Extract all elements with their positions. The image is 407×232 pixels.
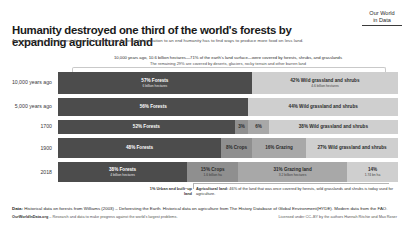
page-title: Humanity destroyed one third of the worl… — [12, 24, 342, 48]
segment-sublabel: 6 billion hectares — [143, 84, 168, 88]
segment-percent-label: 27% Wild grassland and shrubs — [318, 145, 387, 150]
top-annotation: 10,000 years ago, 10.6 billion hectares—… — [58, 55, 398, 66]
license-text: Licensed under CC–BY by the authors Hann… — [278, 214, 397, 220]
bar-segment-grazing[interactable]: 31% Grazing land3.2 billion hectares — [238, 162, 347, 182]
stacked-bar-chart: 10,000 years ago57% Forests6 billion hec… — [0, 70, 407, 185]
credit-left: OurWorldInData.org – Research and data t… — [12, 214, 177, 220]
row-label-1900: 1900 — [0, 145, 52, 151]
row-label-1700: 1700 — [0, 123, 52, 129]
segment-percent-label: 8% Crops — [226, 145, 247, 150]
bar-segment-crops[interactable]: 8% Crops — [221, 138, 252, 158]
footnote-urban-label: 1% Urban and built–up land — [148, 186, 192, 197]
bar-segment-grazing[interactable]: 6% — [248, 120, 268, 134]
row-label-2018: 2018 — [0, 169, 52, 175]
source-line: Data: Historical data on forests from Wi… — [12, 206, 397, 212]
our-world-in-data-logo[interactable]: Our World in Data — [362, 10, 402, 26]
credit-row: OurWorldInData.org – Research and data t… — [12, 214, 397, 221]
bar-row: 38% Forests4 billion hectares15% Crops1.… — [58, 162, 398, 182]
bar-segment-forests[interactable]: 57% Forests6 billion hectares — [58, 72, 252, 94]
segment-percent-label: 38% Wild grassland and shrubs — [299, 124, 368, 129]
page-subtitle: Agriculture is by far the largest driver… — [12, 38, 347, 44]
segment-percent-label: 48% Forests — [126, 145, 153, 150]
logo-line-1: Our World — [362, 10, 402, 17]
bar-segment-crops[interactable]: 3% — [235, 120, 249, 134]
infographic-root: Humanity destroyed one third of the worl… — [0, 0, 407, 232]
footnote-agriculture-label: Agricultural land: — [196, 186, 228, 191]
segment-percent-label: 16% Grazing — [265, 145, 293, 150]
top-annotation-line-1: 10,000 years ago, 10.6 billion hectares—… — [114, 55, 342, 60]
source-block: Data: Historical data on forests from Wi… — [12, 206, 397, 221]
bar-segment-wild[interactable]: 42% Wild grassland and shrubs4.6 billion… — [252, 72, 398, 94]
bar-row: 52% Forests3%6%38% Wild grassland and sh… — [58, 120, 398, 134]
bar-segment-wild[interactable]: 44% Wild grassland and shrubs — [248, 98, 398, 116]
credit-site-link[interactable]: OurWorldInData.org — [12, 215, 48, 219]
segment-percent-label: 52% Forests — [133, 124, 160, 129]
segment-sublabel: 1.74 bn ha — [365, 173, 381, 177]
bar-segment-crops[interactable]: 15% Crops1.6 billion ha — [187, 162, 238, 182]
bar-segment-grazing[interactable]: 16% Grazing — [252, 138, 306, 158]
segment-sublabel: 3.2 billion hectares — [279, 173, 307, 177]
bar-row: 48% Forests8% Crops16% Grazing27% Wild g… — [58, 138, 398, 158]
segment-percent-label: 3% — [238, 124, 245, 129]
top-annotation-line-2: The remaining 29% are covered by deserts… — [58, 61, 398, 67]
bar-segment-wild[interactable]: 38% Wild grassland and shrubs — [269, 120, 398, 134]
source-text: Historical data on forests from Williams… — [23, 206, 388, 211]
bar-segment-wild[interactable]: 14%1.74 bn ha — [347, 162, 398, 182]
segment-percent-label: 56% Forests — [140, 104, 167, 109]
bar-segment-forests[interactable]: 48% Forests — [58, 138, 221, 158]
footnote-agriculture: Agricultural land: 46% of the land that … — [196, 186, 396, 197]
row-label-5-000-years-ago: 5,000 years ago — [0, 103, 52, 109]
bar-row: 57% Forests6 billion hectares42% Wild gr… — [58, 72, 398, 94]
bar-segment-wild[interactable]: 27% Wild grassland and shrubs — [306, 138, 398, 158]
credit-tagline: – Research and data to make progress aga… — [48, 215, 177, 219]
row-label-10-000-years-ago: 10,000 years ago — [0, 79, 52, 85]
segment-sublabel: 1.6 billion ha — [203, 173, 222, 177]
segment-sublabel: 4 billion hectares — [110, 173, 135, 177]
logo-line-2: in Data — [362, 17, 402, 24]
bar-row: 56% Forests44% Wild grassland and shrubs — [58, 98, 398, 116]
bar-segment-forests[interactable]: 56% Forests — [58, 98, 248, 116]
source-label: Data: — [12, 206, 23, 211]
bar-segment-forests[interactable]: 52% Forests — [58, 120, 235, 134]
bar-segment-forests[interactable]: 38% Forests4 billion hectares — [58, 162, 187, 182]
segment-sublabel: 4.6 billion hectares — [311, 84, 339, 88]
segment-percent-label: 6% — [255, 124, 262, 129]
segment-percent-label: 44% Wild grassland and shrubs — [289, 104, 358, 109]
footnote-rule — [193, 183, 389, 184]
footnote-tick — [193, 183, 194, 189]
